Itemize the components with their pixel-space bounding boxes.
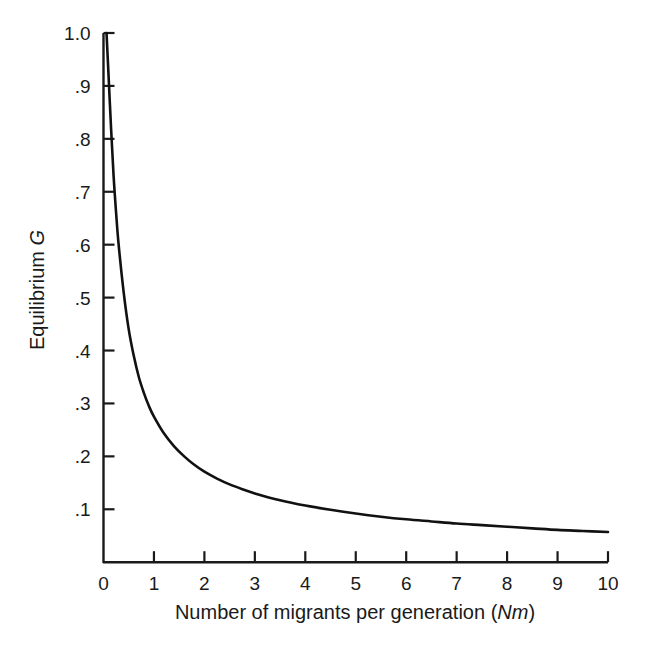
x-tick-label-8: 8 [502, 573, 513, 594]
y-tick-label-.5: .5 [75, 288, 91, 309]
y-tick-label-.2: .2 [75, 446, 91, 467]
chart-figure: .1.2.3.4.5.6.7.8.91.0 012345678910 Numbe… [0, 0, 651, 646]
x-tick-label-4: 4 [300, 573, 311, 594]
x-tick-label-2: 2 [199, 573, 210, 594]
chart-background [0, 0, 651, 646]
y-tick-label-.9: .9 [75, 76, 91, 97]
y-tick-label-1.0: 1.0 [64, 23, 90, 44]
x-tick-label-5: 5 [350, 573, 361, 594]
y-tick-label-.6: .6 [75, 235, 91, 256]
x-tick-label-10: 10 [597, 573, 618, 594]
x-axis-title: Number of migrants per generation (Nm) [175, 601, 535, 623]
y-tick-label-.1: .1 [75, 499, 91, 520]
y-tick-label-.4: .4 [75, 341, 91, 362]
x-tick-label-1: 1 [149, 573, 160, 594]
x-tick-label-6: 6 [401, 573, 412, 594]
y-tick-label-.8: .8 [75, 129, 91, 150]
x-tick-label-0: 0 [98, 573, 109, 594]
x-tick-label-7: 7 [451, 573, 462, 594]
x-tick-label-3: 3 [250, 573, 261, 594]
x-tick-label-9: 9 [552, 573, 563, 594]
chart-plot-area: .1.2.3.4.5.6.7.8.91.0 012345678910 Numbe… [0, 0, 651, 646]
y-tick-label-.3: .3 [75, 393, 91, 414]
y-tick-label-.7: .7 [75, 182, 91, 203]
y-axis-title: Equilibrium G [26, 230, 48, 350]
